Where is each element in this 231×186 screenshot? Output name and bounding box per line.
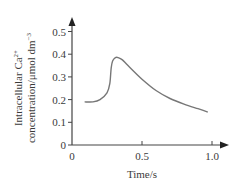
y-tick-label: 0.3: [52, 71, 66, 83]
y-axis-label: Intracellular Ca2+ concentration/μmol dm…: [12, 32, 37, 143]
y-axis-label-line2: concentration/μmol dm: [25, 40, 37, 143]
y-axis-label-sup1: 2+: [12, 50, 20, 58]
y-tick-label: 0: [61, 139, 67, 151]
x-tick-label: 1.0: [205, 150, 219, 162]
y-tick-labels: 0 0.1 0.2 0.3 0.4 0.5: [52, 26, 66, 152]
y-tick-label: 0.5: [52, 26, 66, 38]
svg-text:Intracellular Ca2+: Intracellular Ca2+: [12, 50, 24, 126]
x-tick-label: 0.5: [135, 150, 149, 162]
concentration-curve: [85, 57, 208, 112]
y-tick-label: 0.1: [52, 116, 66, 128]
y-tick-label: 0.4: [52, 48, 66, 60]
x-axis-arrow-icon: [220, 142, 229, 149]
y-axis-arrow-icon: [69, 17, 76, 26]
x-tick-label: 0: [69, 150, 75, 162]
x-axis-label: Time/s: [127, 168, 157, 180]
y-axis-label-line1: Intracellular Ca: [12, 57, 24, 126]
x-tick-labels: 0 0.5 1.0: [69, 150, 219, 162]
y-axis-label-sup2: −3: [25, 32, 33, 40]
y-tick-label: 0.2: [52, 94, 66, 106]
svg-text:concentration/μmol dm−3: concentration/μmol dm−3: [25, 32, 37, 143]
chart: 0 0.1 0.2 0.3 0.4 0.5 0 0.5 1.0 Time/s I…: [0, 0, 231, 186]
